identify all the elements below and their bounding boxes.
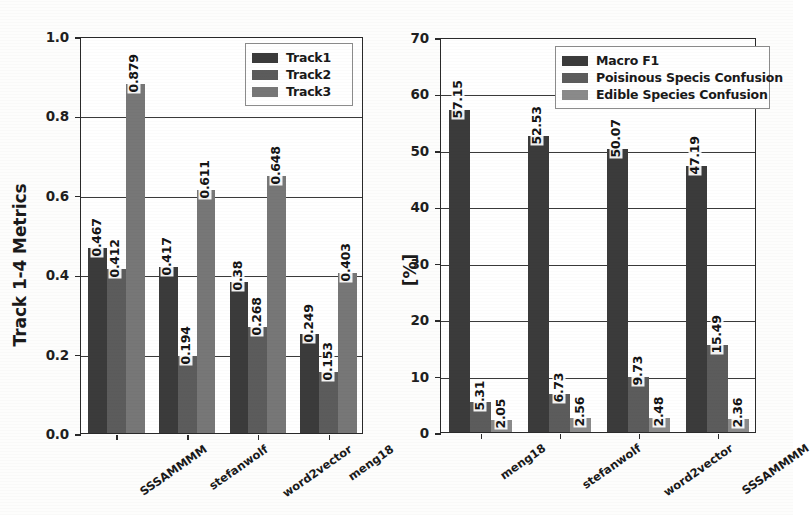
y-tick-mark	[75, 196, 81, 197]
x-tick-mark	[718, 434, 719, 439]
y-tick-label: 0.8	[46, 108, 69, 124]
x-tick-label: meng18	[497, 441, 548, 482]
bar-value-label: 0.249	[302, 304, 315, 344]
legend-label: Track1	[286, 50, 331, 65]
legend-item: Track3	[252, 83, 345, 100]
y-tick-label: 70	[411, 30, 429, 46]
y-tick-mark	[75, 117, 81, 118]
legend-item: Macro F1	[562, 52, 762, 69]
x-tick-label: SSSAMMMM	[138, 442, 210, 498]
bar	[159, 267, 178, 433]
x-tick-label: word2vector	[660, 441, 735, 499]
bar	[300, 334, 319, 433]
bar	[528, 136, 549, 432]
x-tick-mark	[329, 435, 330, 440]
y-tick-mark	[435, 208, 441, 209]
bar-value-label: 0.38	[232, 260, 245, 292]
gridline	[441, 152, 755, 153]
bar-value-label: 0.268	[250, 296, 263, 336]
legend-swatch-icon	[562, 56, 588, 66]
bar	[197, 190, 216, 433]
y-tick-mark	[435, 377, 441, 378]
x-tick-label: SSSAMMMM	[739, 441, 811, 497]
y-tick-label: 0.4	[46, 267, 69, 283]
y-tick-mark	[435, 433, 441, 434]
y-tick-label: 0.2	[46, 347, 69, 363]
bar	[607, 149, 628, 432]
bar-value-label: 5.31	[473, 380, 486, 412]
legend-swatch-icon	[252, 53, 278, 63]
bar-value-label: 2.56	[573, 395, 586, 427]
x-tick-mark	[560, 434, 561, 439]
y-tick-mark	[435, 151, 441, 152]
bar-value-label: 0.879	[128, 53, 141, 93]
y-tick-mark	[75, 276, 81, 277]
y-tick-mark	[435, 320, 441, 321]
y-tick-label: 0.0	[46, 426, 69, 442]
legend-swatch-icon	[252, 70, 278, 80]
legend-label: Poisinous Specis Confusion	[596, 70, 783, 85]
bar-value-label: 0.412	[109, 239, 122, 279]
bar-value-label: 0.648	[269, 145, 282, 185]
gridline	[441, 208, 755, 209]
bar-value-label: 2.36	[731, 397, 744, 429]
x-tick-mark	[258, 435, 259, 440]
bar-value-label: 52.53	[531, 105, 544, 145]
legend-label: Macro F1	[596, 53, 659, 68]
bar-value-label: 47.19	[689, 135, 702, 175]
y-tick-label: 20	[411, 312, 429, 328]
y-tick-label: 50	[411, 143, 429, 159]
legend-swatch-icon	[562, 73, 588, 83]
gridline	[81, 197, 362, 198]
x-tick-label: meng18	[345, 442, 396, 483]
legend-swatch-icon	[252, 87, 278, 97]
legend-item: Track1	[252, 49, 345, 66]
y-axis-title-left: Track 1-4 Metrics	[10, 184, 30, 347]
y-tick-label: 60	[411, 86, 429, 102]
x-tick-label: word2vector	[280, 442, 355, 500]
x-tick-mark	[481, 434, 482, 439]
y-tick-mark	[435, 95, 441, 96]
y-tick-mark	[435, 38, 441, 39]
legend-label: Track2	[286, 67, 331, 82]
bar	[178, 356, 197, 433]
y-tick-label: 40	[411, 199, 429, 215]
x-tick-mark	[639, 434, 640, 439]
y-tick-label: 0.6	[46, 188, 69, 204]
y-tick-label: 1.0	[46, 29, 69, 45]
chart-panel-left: 0.00.20.40.60.81.0Track 1-4 Metrics0.467…	[0, 0, 400, 515]
y-tick-mark	[75, 355, 81, 356]
y-tick-label: 0	[420, 425, 429, 441]
bar	[126, 84, 145, 433]
y-tick-label: 10	[411, 369, 429, 385]
bar	[707, 345, 728, 432]
bar-value-label: 0.153	[321, 342, 334, 382]
bar-value-label: 9.73	[631, 355, 644, 387]
bar-value-label: 0.611	[198, 160, 211, 200]
x-tick-mark	[187, 435, 188, 440]
bar-value-label: 2.48	[652, 396, 665, 428]
x-tick-label: stefanwolf	[579, 441, 643, 492]
legend-item: Edible Species Confusion	[562, 86, 762, 103]
y-axis-title-right: [%]	[400, 254, 420, 286]
y-tick-mark	[435, 264, 441, 265]
legend-left: Track1Track2Track3	[245, 43, 353, 106]
bar-value-label: 0.403	[340, 242, 353, 282]
bar	[449, 110, 470, 432]
legend-right: Macro F1Poisinous Specis ConfusionEdible…	[555, 46, 770, 109]
chart-panel-right: 010203040506070[%]57.155.312.05meng1852.…	[400, 0, 793, 515]
bar	[107, 269, 126, 433]
bar-value-label: 0.417	[161, 237, 174, 277]
bar-value-label: 0.194	[180, 325, 193, 365]
bar	[267, 176, 286, 433]
bar-value-label: 50.07	[610, 119, 623, 159]
legend-item: Track2	[252, 66, 345, 83]
bar-value-label: 6.73	[552, 372, 565, 404]
legend-label: Track3	[286, 84, 331, 99]
legend-swatch-icon	[562, 90, 588, 100]
gridline	[81, 117, 362, 118]
bar	[88, 248, 107, 433]
bar	[338, 273, 357, 433]
y-tick-mark	[75, 37, 81, 38]
